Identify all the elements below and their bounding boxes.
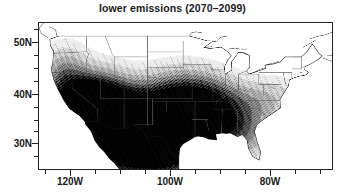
xtick-mark-minor-8 [295,170,296,174]
map-shading-canvas [39,23,332,169]
xtick-mark-minor-3 [120,170,121,174]
xtick-mark-minor-1 [45,170,46,174]
xtick-mark-minor-6 [220,170,221,174]
xtick-mark-minor-2 [95,170,96,174]
map-plot-area [38,22,333,170]
ytick-label-30n: 30N [0,138,32,149]
figure-panel: lower emissions (2070–2099) 50N 40N 30N … [0,0,345,194]
chart-title: lower emissions (2070–2099) [0,2,345,14]
xtick-mark-minor-9 [320,170,321,174]
ytick-label-40n: 40N [0,89,32,100]
xtick-mark-minor-7 [245,170,246,174]
xtick-label-100w: 100W [140,176,200,187]
xtick-label-80w: 80W [240,176,300,187]
xtick-label-120w: 120W [40,176,100,187]
ytick-label-50n: 50N [0,37,32,48]
xtick-mark-minor-5 [195,170,196,174]
xtick-mark-minor-4 [145,170,146,174]
